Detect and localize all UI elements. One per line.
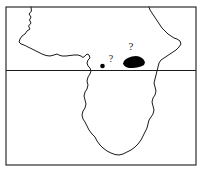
map-background: [0, 0, 202, 176]
map-canvas: ? ?: [0, 0, 202, 176]
africa-distribution-map: ? ?: [0, 0, 202, 176]
distribution-point: [100, 64, 105, 69]
query-mark-upper: ?: [129, 40, 134, 52]
query-mark-lower: ?: [109, 53, 114, 64]
